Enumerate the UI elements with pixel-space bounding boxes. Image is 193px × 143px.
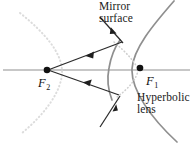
focus-f1-letter: F	[146, 74, 154, 88]
focus-f1-label: F1	[146, 74, 158, 89]
reflected-ray-upper	[48, 42, 122, 70]
focus-f2-subscript: 2	[46, 83, 50, 92]
hyperbolic-lens-curve	[132, 1, 177, 142]
figure-canvas	[0, 0, 193, 143]
optics-ray-diagram-figure: Mirror surface Hyperbolic lens F2 F1	[0, 0, 193, 143]
focus-f2-letter: F	[38, 76, 46, 90]
focus-point-f1	[137, 65, 144, 72]
hyperbolic-lens-label: Hyperbolic lens	[137, 92, 190, 115]
mirror-surface-label: Mirror surface	[99, 1, 133, 24]
focus-f1-subscript: 1	[154, 81, 158, 90]
arrowhead-incident-upper	[110, 27, 117, 34]
focus-f2-label: F2	[38, 76, 50, 91]
focus-point-f2	[44, 67, 51, 74]
incident-ray-lower	[100, 96, 120, 127]
